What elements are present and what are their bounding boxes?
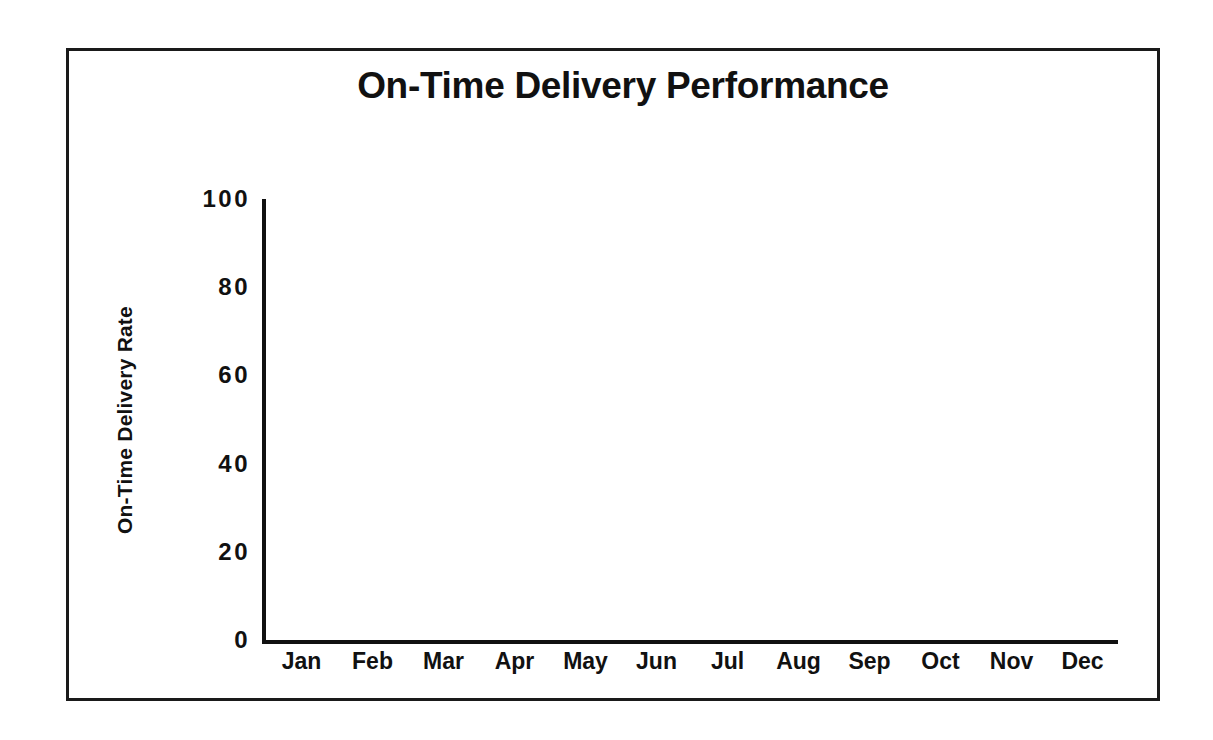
x-axis-line — [262, 640, 1118, 644]
y-axis-title: On-Time Delivery Rate — [111, 199, 139, 640]
x-tick-label-oct: Oct — [905, 648, 976, 675]
x-tick-label-jul: Jul — [692, 648, 763, 675]
chart-frame: On-Time Delivery Performance On-Time Del… — [66, 48, 1160, 701]
x-tick-label-feb: Feb — [337, 648, 408, 675]
x-tick-label-aug: Aug — [763, 648, 834, 675]
plot-area: 100 80 60 40 20 0 Jan Feb Mar Apr May Ju… — [266, 199, 1118, 640]
y-tick-label-40: 40 — [218, 450, 250, 478]
plot-canvas — [266, 199, 1118, 640]
y-tick-label-100: 100 — [202, 185, 250, 213]
x-tick-label-apr: Apr — [479, 648, 550, 675]
x-tick-label-mar: Mar — [408, 648, 479, 675]
y-tick-label-20: 20 — [218, 538, 250, 566]
x-tick-label-dec: Dec — [1047, 648, 1118, 675]
x-tick-label-sep: Sep — [834, 648, 905, 675]
y-tick-label-80: 80 — [218, 273, 250, 301]
x-tick-label-jun: Jun — [621, 648, 692, 675]
y-axis-title-label: On-Time Delivery Rate — [113, 306, 137, 534]
x-tick-label-nov: Nov — [976, 648, 1047, 675]
x-axis-tick-labels: Jan Feb Mar Apr May Jun Jul Aug Sep Oct … — [266, 648, 1118, 675]
y-tick-label-60: 60 — [218, 361, 250, 389]
y-axis-line — [262, 199, 266, 640]
x-tick-label-may: May — [550, 648, 621, 675]
y-tick-label-0: 0 — [234, 626, 250, 654]
chart-title: On-Time Delivery Performance — [79, 65, 1167, 107]
x-tick-label-jan: Jan — [266, 648, 337, 675]
